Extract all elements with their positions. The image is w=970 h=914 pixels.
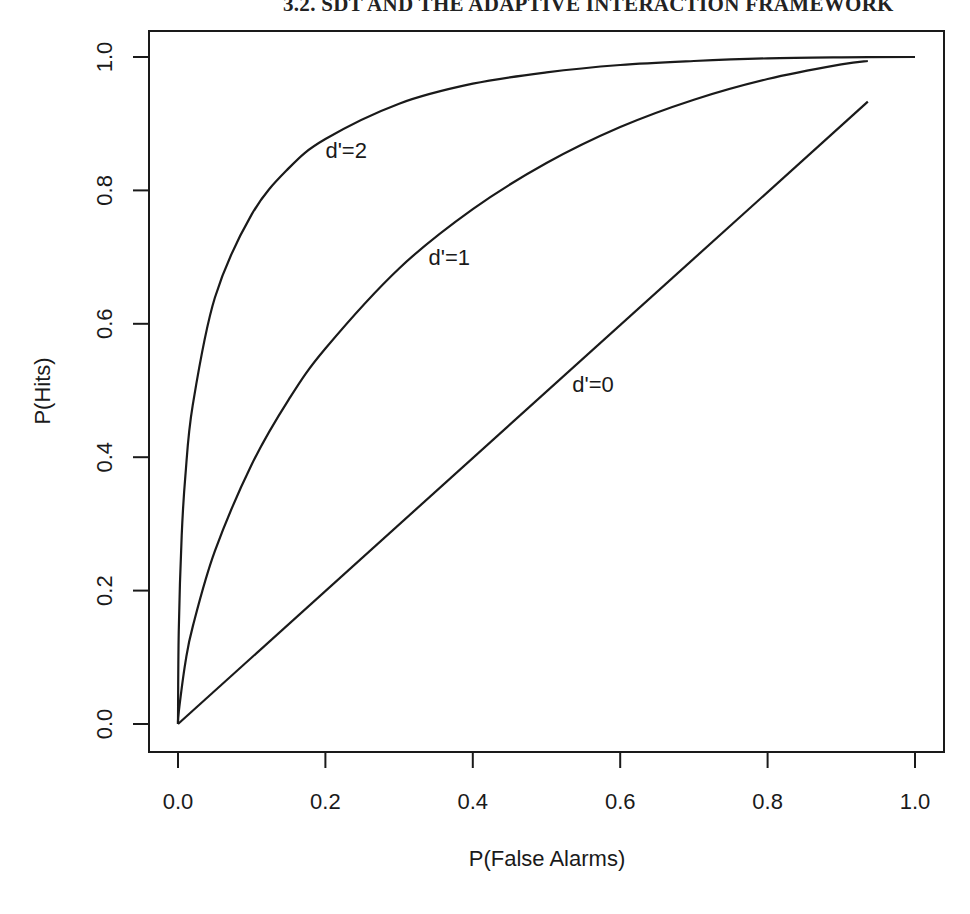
- y-tick-label: 0.2: [92, 575, 117, 606]
- curve-label: d'=1: [429, 245, 471, 270]
- x-tick-label: 0.2: [310, 789, 341, 814]
- y-tick-label: 0.8: [92, 175, 117, 206]
- x-tick-label: 0.6: [605, 789, 636, 814]
- x-axis: 0.00.20.40.60.81.0: [163, 752, 931, 814]
- curve-label: d'=2: [325, 138, 367, 163]
- x-tick-label: 0.8: [752, 789, 783, 814]
- y-tick-label: 0.6: [92, 309, 117, 340]
- x-axis-label: P(False Alarms): [469, 846, 625, 871]
- y-axis-label: P(Hits): [30, 357, 55, 424]
- roc-curves: [178, 57, 915, 724]
- y-tick-label: 0.0: [92, 709, 117, 740]
- y-axis: 0.00.20.40.60.81.0: [92, 42, 149, 740]
- curve-labels: d'=2d'=1d'=0: [325, 138, 613, 396]
- y-tick-label: 0.4: [92, 442, 117, 473]
- curve-label: d'=0: [572, 372, 614, 397]
- x-tick-label: 0.0: [163, 789, 194, 814]
- roc-curve-d1: [178, 61, 868, 724]
- x-tick-label: 0.4: [458, 789, 489, 814]
- x-tick-label: 1.0: [900, 789, 931, 814]
- y-tick-label: 1.0: [92, 42, 117, 73]
- roc-chart: 0.00.20.40.60.81.0 0.00.20.40.60.81.0 d'…: [0, 0, 970, 914]
